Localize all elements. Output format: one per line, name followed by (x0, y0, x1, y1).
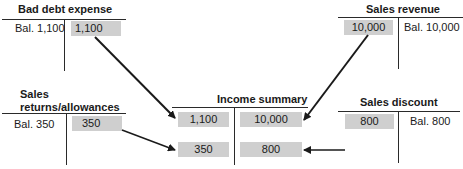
closing-arrows (0, 0, 463, 169)
arrow-sales-revenue-to-income-summary (304, 35, 368, 120)
arrow-bad-debt-to-income-summary (95, 37, 175, 118)
arrow-sales-returns-to-income-summary (122, 130, 175, 150)
